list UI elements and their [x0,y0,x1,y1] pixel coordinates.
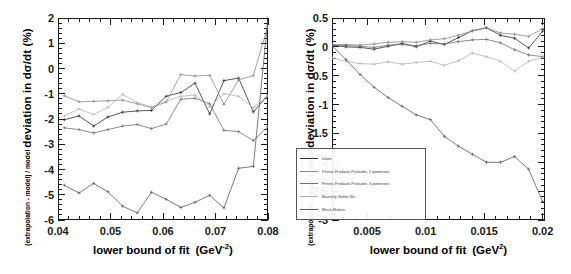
left-plot-panel: deviation in dσ/dt (%) (extrapolation - … [0,0,285,274]
left-data-point [63,126,66,129]
left-y-tick-label: -2 [44,113,54,125]
right-data-point [429,60,432,63]
legend: IslamPetrov-Predazzi-Prokudin, 2 pomeron… [296,148,426,220]
right-x-axis-title: lower bound of fit(GeV2) [332,242,545,256]
left-data-point [150,127,153,130]
right-x-axis-unit: (GeV2) [472,244,507,256]
right-data-point [485,55,488,58]
right-data-point [373,63,376,66]
legend-item-label: Bourrely-Soffer-Wu [322,194,356,199]
left-x-tick-label: 0.07 [205,225,226,237]
right-data-point [429,42,432,45]
left-x-axis-unit: (GeV-2) [196,244,233,256]
left-y-tick-label: 2 [48,12,54,24]
left-data-point [222,129,225,132]
right-data-point [443,42,446,45]
left-x-tick-label: 0.06 [152,225,173,237]
left-data-point [77,128,80,131]
right-data-point [471,38,474,41]
legend-item[interactable]: Islam [300,153,422,164]
right-data-point [471,29,474,32]
right-series-line [332,53,543,71]
left-data-point [179,73,182,76]
left-data-point [136,123,139,126]
right-data-point [513,33,516,36]
right-data-point [330,56,333,59]
left-data-point [63,114,66,117]
legend-item[interactable]: Bourrely-Soffer-Wu [300,191,422,202]
left-x-tick-label: 0.04 [47,225,69,237]
left-data-point [106,99,109,102]
legend-line-swatch [300,158,318,159]
right-series-line [332,28,543,49]
left-x-axis-title-main: lower bound of fit [93,244,189,256]
right-plot-panel: deviation in dσ/dt (%) (extrapolation - … [285,0,571,274]
right-data-point [415,61,418,64]
right-data-point [457,34,460,37]
left-y-tick-label: 1 [48,37,54,49]
right-data-point [443,37,446,40]
right-data-point [471,153,474,156]
left-data-point [222,79,225,82]
left-data-point [208,102,211,105]
left-x-tick-label: 0.08 [257,225,278,237]
left-data-point [193,74,196,77]
left-data-point [165,198,168,201]
left-data-point [193,201,196,204]
right-y-tick-label: -1.5 [309,127,328,139]
left-plot-canvas: -6-5-4-3-2-10120.040.050.060.070.08 [0,0,285,274]
right-plot-canvas: -3-2.5-2-1.5-1-0.500.50.0050.010.0150.02 [285,0,571,274]
legend-item-label: Petrov-Predazzi-Prokudin, 3 pomerons [322,181,390,186]
left-data-point [63,94,66,97]
legend-line-swatch [300,196,318,197]
right-data-point [443,64,446,67]
right-x-tick-label: 0.015 [470,225,498,237]
right-data-point [387,41,390,44]
right-y-tick-label: -0.5 [309,70,328,82]
right-data-point [457,40,460,43]
right-y-tick-label: -1 [318,99,328,111]
left-data-point [237,167,240,170]
right-data-point [499,41,502,44]
legend-line-swatch [300,183,318,184]
left-data-point [92,100,95,103]
left-data-point [121,124,124,127]
legend-item[interactable]: Block-Halzen [300,204,422,215]
left-series-line [64,98,268,140]
legend-item[interactable]: Petrov-Predazzi-Prokudin, 2 pomerons [300,166,422,177]
right-data-point [499,161,502,164]
left-data-point [252,165,255,168]
legend-item[interactable]: Petrov-Predazzi-Prokudin, 3 pomerons [300,178,422,189]
right-data-point [513,48,516,51]
left-data-point [92,131,95,134]
right-data-point [471,52,474,55]
right-data-point [401,63,404,66]
left-y-tick-label: -4 [44,164,55,176]
left-data-point [266,16,269,19]
legend-item-label: Petrov-Predazzi-Prokudin, 2 pomerons [322,169,390,174]
left-y-tick-label: 0 [48,63,54,75]
right-y-tick-label: 0.5 [313,12,328,24]
left-data-point [63,184,66,187]
legend-item-label: Block-Halzen [322,207,345,212]
left-data-point [121,111,124,114]
left-data-point [208,112,211,115]
right-data-point [373,42,376,45]
right-data-point [358,62,361,65]
right-data-point [415,41,418,44]
right-x-axis-unit-exp: 2 [499,242,503,251]
left-data-point [150,105,153,108]
right-data-point [387,60,390,63]
left-x-axis-unit-exp: -2 [222,242,229,251]
left-data-point [77,100,80,103]
right-data-point [401,40,404,43]
left-data-point [121,98,124,101]
left-data-point [92,113,95,116]
left-data-point [179,95,182,98]
right-x-tick-label: 0.005 [353,225,381,237]
right-y-tick-label: 0 [322,41,328,53]
figure-root: deviation in dσ/dt (%) (extrapolation - … [0,0,571,274]
right-data-point [485,161,488,164]
right-x-axis-unit-base: (GeV [472,244,499,256]
right-x-tick-label: 0.01 [415,225,436,237]
